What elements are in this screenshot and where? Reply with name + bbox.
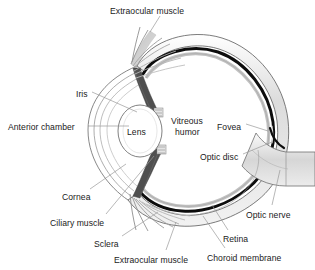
label-optic-nerve: Optic nerve [246,210,291,220]
eye-cross-section-drawing [0,0,315,270]
label-optic-disc: Optic disc [200,152,238,162]
label-vitreous-humor-line2: humor [175,127,200,137]
label-extraocular-muscle-bottom: Extraocular muscle [114,255,188,265]
label-vitreous-humor-line1: Vitreous [171,116,203,126]
eye-anatomy-figure: Extraocular muscle Iris Anterior chamber… [0,0,315,270]
label-retina: Retina [223,234,248,244]
label-ciliary-muscle: Ciliary muscle [50,218,104,228]
label-extraocular-muscle-top: Extraocular muscle [110,6,184,16]
label-sclera: Sclera [94,239,119,249]
label-fovea: Fovea [217,122,241,132]
label-cornea: Cornea [62,192,91,202]
label-iris: Iris [76,89,88,99]
label-lens: Lens [127,127,146,137]
label-anterior-chamber: Anterior chamber [8,122,75,132]
label-choroid-membrane: Choroid membrane [207,253,281,263]
